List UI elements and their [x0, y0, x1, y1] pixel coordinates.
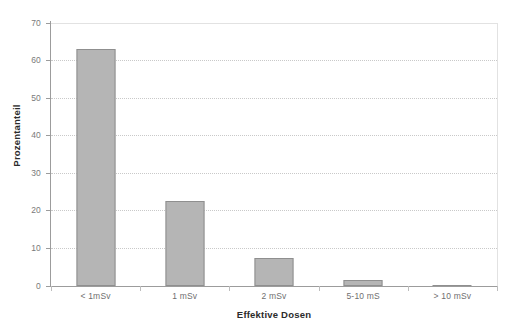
bar-chart: 706050403020100 Prozentanteil < 1mSv1 mS…	[0, 0, 513, 336]
x-tick-label: 1 mSv	[140, 292, 229, 301]
x-tick-label: < 1mSv	[51, 292, 140, 301]
y-tick-label: 0	[1, 282, 41, 291]
x-axis-line	[50, 286, 498, 287]
x-tick-label: > 10 mSv	[408, 292, 497, 301]
y-tick-label: 10	[1, 244, 41, 253]
y-tick-label: 20	[1, 206, 41, 215]
x-tick-mark	[140, 286, 141, 291]
bars-layer	[51, 23, 497, 286]
bar[interactable]	[76, 49, 115, 286]
x-axis-title: Effektive Dosen	[51, 309, 497, 320]
x-tick-mark	[497, 286, 498, 291]
bar[interactable]	[254, 258, 293, 286]
bar-slot	[319, 23, 408, 286]
y-tick-label: 70	[1, 19, 41, 28]
x-tick-label: 5-10 mS	[319, 292, 408, 301]
x-tick-mark	[408, 286, 409, 291]
bar-slot	[140, 23, 229, 286]
x-tick-mark	[229, 286, 230, 291]
bar-slot	[51, 23, 140, 286]
x-tick-label: 2 mSv	[229, 292, 318, 301]
y-axis-title: Prozentanteil	[11, 76, 22, 196]
x-tick-mark	[51, 286, 52, 291]
x-tick-mark	[319, 286, 320, 291]
bar[interactable]	[165, 201, 204, 286]
bar-slot	[229, 23, 318, 286]
y-tick-label: 60	[1, 56, 41, 65]
bar-slot	[408, 23, 497, 286]
